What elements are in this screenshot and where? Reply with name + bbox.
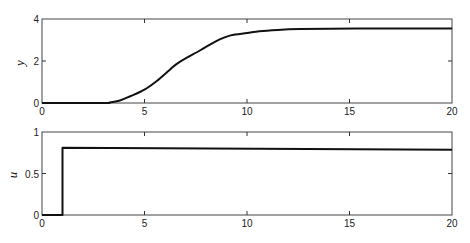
top-axes-frame xyxy=(42,19,452,103)
x-tick-label: 15 xyxy=(344,218,356,229)
y-tick-label: 0.5 xyxy=(25,169,39,180)
x-tick-label: 10 xyxy=(241,218,253,229)
x-tick-label: 20 xyxy=(446,218,458,229)
y-tick-label: 1 xyxy=(33,127,39,138)
top-ylabel: y xyxy=(12,60,27,68)
x-tick-label: 15 xyxy=(344,106,356,117)
bottom-axes-ticks: 0510152000.51 xyxy=(25,127,458,229)
y-tick-label: 2 xyxy=(33,56,39,67)
bottom-axes-frame xyxy=(42,132,452,215)
x-tick-label: 20 xyxy=(446,106,458,117)
top-axes-y-plot: 05101520024 y xyxy=(12,14,458,117)
bottom-axes-u-plot: 0510152000.51 u xyxy=(5,127,458,229)
top-axes-ticks: 05101520024 xyxy=(33,14,458,117)
x-tick-label: 0 xyxy=(39,218,45,229)
x-tick-label: 5 xyxy=(142,218,148,229)
x-tick-label: 10 xyxy=(241,106,253,117)
bottom-ylabel: u xyxy=(5,171,20,178)
y-tick-label: 0 xyxy=(33,210,39,221)
u-input-curve xyxy=(42,148,452,215)
y-response-curve xyxy=(42,28,452,103)
y-tick-label: 0 xyxy=(33,98,39,109)
x-tick-label: 5 xyxy=(142,106,148,117)
x-tick-label: 0 xyxy=(39,106,45,117)
y-tick-label: 4 xyxy=(33,14,39,25)
figure: 05101520024 y 0510152000.51 u xyxy=(0,0,470,243)
